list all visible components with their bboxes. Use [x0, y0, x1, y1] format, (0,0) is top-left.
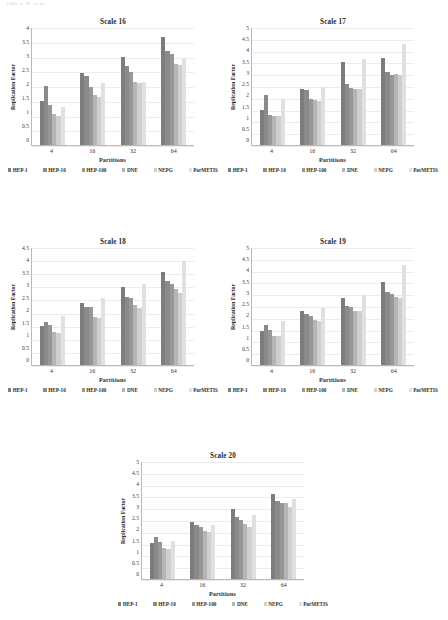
legend-item[interactable]: HEP-1	[8, 167, 28, 173]
x-tick-label: 4	[141, 582, 182, 588]
x-tick-label: 16	[182, 582, 223, 588]
chart-legend: HEP-1HEP-10HEP-100DNENEPGParMETIS	[228, 163, 438, 173]
plot-area: Replication Factor54.543.532.521.510.50	[228, 28, 438, 146]
x-tick-label: 64	[153, 148, 194, 154]
y-tick-label: 2.5	[22, 68, 29, 74]
legend-item[interactable]: DNE	[342, 387, 358, 393]
gridline	[32, 146, 194, 147]
legend-item[interactable]: HEP-1	[8, 387, 28, 393]
y-tick-label: 0	[246, 138, 249, 144]
legend-swatch-icon	[232, 602, 235, 605]
bar-group	[121, 248, 146, 365]
legend-item[interactable]: HEP-100	[302, 387, 327, 393]
legend-swatch-icon	[374, 388, 377, 391]
legend-label: HEP-10	[268, 387, 286, 393]
chart-scale-16: Scale 16Replication Factor43.532.521.510…	[8, 18, 218, 173]
legend-item[interactable]: NEPG	[154, 387, 173, 393]
chart-scale-19: Scale 19Replication Factor54.543.532.521…	[228, 238, 438, 393]
x-tick-label: 4	[31, 148, 72, 154]
y-tick-label: 1.5	[242, 325, 249, 331]
x-tick-label: 32	[113, 148, 154, 154]
legend-item[interactable]: HEP-100	[82, 167, 107, 173]
legend-item[interactable]: HEP-1	[228, 387, 248, 393]
legend-swatch-icon	[82, 168, 85, 171]
legend-item[interactable]: ParMETIS	[409, 387, 438, 393]
chart-title: Scale 20	[118, 452, 328, 462]
legend-swatch-icon	[374, 168, 377, 171]
legend-item[interactable]: HEP-100	[192, 601, 217, 607]
legend-swatch-icon	[154, 388, 157, 391]
legend-label: HEP-1	[233, 387, 248, 393]
y-tick-label: 2.5	[22, 296, 29, 302]
legend-item[interactable]: HEP-10	[43, 167, 65, 173]
chart-scale-17: Scale 17Replication Factor54.543.532.521…	[228, 18, 438, 173]
legend-item[interactable]: HEP-100	[82, 387, 107, 393]
legend-item[interactable]: HEP-10	[153, 601, 175, 607]
legend-item[interactable]: NEPG	[374, 387, 393, 393]
y-tick-label: 1	[246, 116, 249, 122]
chart-scale-20: Scale 20Replication Factor54.543.532.521…	[118, 452, 328, 607]
y-tick-label: 1.5	[22, 96, 29, 102]
legend-item[interactable]: ParMETIS	[299, 601, 328, 607]
legend-label: ParMETIS	[413, 167, 438, 173]
legend-item[interactable]: NEPG	[374, 167, 393, 173]
bar-groups	[142, 462, 304, 579]
legend-item[interactable]: ParMETIS	[409, 167, 438, 173]
bar-group	[341, 28, 366, 145]
legend-swatch-icon	[342, 388, 345, 391]
x-tick-label: 4	[31, 368, 72, 374]
legend-swatch-icon	[409, 388, 412, 391]
legend-item[interactable]: ParMETIS	[189, 387, 218, 393]
y-tick-label: 1.5	[242, 105, 249, 111]
legend-item[interactable]: NEPG	[264, 601, 283, 607]
legend-swatch-icon	[153, 602, 156, 605]
legend-item[interactable]: NEPG	[154, 167, 173, 173]
legend-item[interactable]: DNE	[342, 167, 358, 173]
bar-group	[300, 28, 325, 145]
legend-item[interactable]: HEP-10	[263, 167, 285, 173]
legend-item[interactable]: DNE	[232, 601, 248, 607]
legend-item[interactable]: HEP-10	[263, 387, 285, 393]
legend-label: NEPG	[378, 167, 392, 173]
y-tick-label: 1.5	[22, 321, 29, 327]
bar-group	[121, 28, 146, 145]
y-tick-label: 5	[136, 460, 139, 466]
y-axis-label: Replication Factor	[228, 28, 237, 146]
y-tick-label: 2	[246, 93, 249, 99]
x-tick-label: 32	[113, 368, 154, 374]
legend-swatch-icon	[342, 168, 345, 171]
legend-item[interactable]: DNE	[122, 387, 138, 393]
y-axis-ticks: 43.532.521.510.50	[17, 28, 31, 146]
plot-area: Replication Factor4.543.532.521.510.50	[8, 248, 218, 366]
x-tick-label: 16	[292, 368, 333, 374]
plot-canvas	[31, 248, 194, 366]
legend-item[interactable]: HEP-10	[43, 387, 65, 393]
legend-item[interactable]: HEP-100	[302, 167, 327, 173]
bar	[292, 499, 296, 579]
x-axis-ticks: 4163264	[251, 146, 414, 154]
bar-group	[271, 462, 296, 579]
legend-label: ParMETIS	[193, 167, 218, 173]
legend-label: DNE	[127, 167, 138, 173]
y-axis-ticks: 54.543.532.521.510.50	[237, 248, 251, 366]
legend-swatch-icon	[409, 168, 412, 171]
y-tick-label: 2.5	[242, 82, 249, 88]
y-tick-label: 3	[246, 71, 249, 77]
y-tick-label: 3.5	[242, 60, 249, 66]
legend-swatch-icon	[302, 388, 305, 391]
bar	[142, 82, 146, 145]
legend-item[interactable]: HEP-1	[228, 167, 248, 173]
legend-item[interactable]: HEP-1	[118, 601, 138, 607]
legend-item[interactable]: DNE	[122, 167, 138, 173]
legend-label: ParMETIS	[303, 601, 328, 607]
bar-groups	[252, 28, 414, 145]
legend-item[interactable]: ParMETIS	[189, 167, 218, 173]
y-tick-label: 4	[246, 268, 249, 274]
y-tick-label: 0.5	[242, 127, 249, 133]
gridline	[142, 580, 304, 581]
y-tick-label: 1	[26, 333, 29, 339]
legend-label: DNE	[347, 387, 358, 393]
legend-label: HEP-10	[158, 601, 176, 607]
plot-canvas	[251, 248, 414, 366]
running-head: 1000 A. B. et al.	[6, 1, 45, 6]
